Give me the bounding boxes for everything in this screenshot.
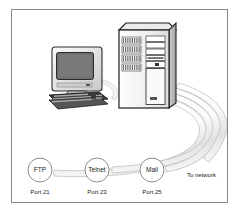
server-drive-bays bbox=[146, 36, 165, 105]
port-nodes: FTP Port 21 Telnet Port 23 Mail Port 25 bbox=[28, 158, 164, 195]
server-logo-badge bbox=[150, 97, 157, 100]
port-number-label: Port 23 bbox=[87, 189, 107, 195]
drive-eject-button bbox=[155, 63, 159, 66]
tower-server bbox=[119, 23, 176, 108]
server-top-panel bbox=[119, 23, 176, 30]
floppy-slot bbox=[148, 57, 164, 59]
port-service-label: Mail bbox=[146, 166, 158, 173]
port-number-label: Port 25 bbox=[142, 189, 162, 195]
server-side-panel bbox=[169, 23, 176, 108]
desktop-computer bbox=[49, 47, 108, 109]
figure-container: FTP Port 21 Telnet Port 23 Mail Port 25 … bbox=[0, 0, 239, 213]
diagram-artwork: FTP Port 21 Telnet Port 23 Mail Port 25 … bbox=[0, 0, 239, 213]
port-node-telnet[interactable]: Telnet Port 23 bbox=[85, 158, 109, 195]
port-node-ftp[interactable]: FTP Port 21 bbox=[28, 158, 52, 195]
port-service-label: FTP bbox=[34, 166, 46, 173]
port-node-mail[interactable]: Mail Port 25 bbox=[140, 158, 164, 195]
port-number-label: Port 21 bbox=[30, 189, 50, 195]
monitor-screen-inner bbox=[59, 55, 92, 78]
port-service-label: Telnet bbox=[88, 166, 106, 173]
monitor-power-led bbox=[86, 84, 90, 86]
to-network-label: To network bbox=[187, 172, 217, 178]
